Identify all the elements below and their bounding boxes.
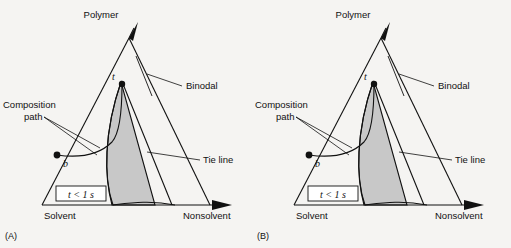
point-b-marker <box>54 152 61 159</box>
label-binodal: Binodal <box>438 80 470 91</box>
label-binodal: Binodal <box>186 80 218 91</box>
label-tie-line: Tie line <box>455 154 485 165</box>
panel-b: Polymer Solvent Nonsolvent Binodal Tie l… <box>255 0 511 248</box>
panel-letter-b: (B) <box>257 231 269 241</box>
axis-label-solvent: Solvent <box>296 210 328 221</box>
label-point-t: t <box>112 71 115 82</box>
label-time-box: t < 1 s <box>320 189 346 200</box>
label-composition-path-line1: Composition <box>255 99 308 110</box>
axis-label-polymer: Polymer <box>336 9 371 20</box>
axis-label-solvent: Solvent <box>44 210 76 221</box>
axis-label-polymer: Polymer <box>84 9 119 20</box>
point-t-marker <box>371 81 377 87</box>
label-composition-path-line2: path <box>276 111 295 122</box>
label-point-b: b <box>63 158 68 169</box>
label-point-t: t <box>364 71 367 82</box>
label-composition-path-line1: Composition <box>3 99 56 110</box>
panel-letter-a: (A) <box>5 231 17 241</box>
panel-a: Polymer Solvent Nonsolvent Binodal Tie l… <box>0 0 256 248</box>
label-point-b: b <box>315 158 320 169</box>
figure-container: Polymer Solvent Nonsolvent Binodal Tie l… <box>0 0 511 248</box>
axis-label-nonsolvent: Nonsolvent <box>183 210 231 221</box>
label-time-box: t < 1 s <box>68 189 94 200</box>
point-t-marker <box>119 81 125 87</box>
point-b-marker <box>306 152 313 159</box>
label-tie-line: Tie line <box>203 154 233 165</box>
label-composition-path-line2: path <box>24 111 43 122</box>
axis-label-nonsolvent: Nonsolvent <box>435 210 483 221</box>
